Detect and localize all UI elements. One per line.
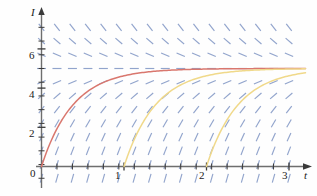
- slope-field-dash: [209, 106, 214, 113]
- slope-field-dash: [224, 106, 229, 113]
- y-axis-label: I: [31, 7, 35, 18]
- slope-field-dash: [209, 24, 214, 31]
- plot-canvas: [0, 0, 317, 196]
- slope-field-dash: [223, 80, 231, 84]
- slope-field-figure: I t 0 1 2 3 2 4 6: [0, 0, 317, 196]
- slope-field-dash: [193, 24, 198, 31]
- slope-field-dash: [209, 119, 214, 127]
- slope-field-dash: [148, 133, 152, 141]
- slope-field-dash: [193, 106, 198, 113]
- slope-field-dash: [163, 133, 167, 141]
- slope-field-dash: [131, 38, 138, 44]
- slope-field-dash: [146, 93, 153, 99]
- slope-field-dash: [55, 147, 58, 155]
- slope-field-dash: [257, 174, 260, 183]
- slope-field-dash: [177, 53, 185, 57]
- slope-field-dash: [54, 93, 61, 99]
- x-tick-label-2: 2: [199, 170, 205, 181]
- slope-field-dash: [84, 53, 92, 57]
- slope-field-dash: [179, 133, 183, 141]
- slope-field-dash: [131, 93, 138, 99]
- slope-field-dash: [99, 53, 107, 57]
- slope-field-dash: [271, 119, 276, 127]
- slope-field-dash: [241, 133, 245, 141]
- slope-field-dash: [194, 133, 198, 141]
- slope-field-dash: [102, 147, 105, 155]
- slope-field-dash: [270, 93, 277, 99]
- slope-field-dash: [269, 53, 277, 57]
- slope-field-dash: [286, 24, 292, 31]
- slope-field-dash: [116, 106, 121, 113]
- slope-field-dash: [256, 133, 260, 141]
- slope-field-dash: [256, 147, 259, 155]
- slope-field-dash: [85, 106, 90, 113]
- slope-field-dash: [87, 174, 90, 183]
- slope-field-dash: [240, 119, 245, 127]
- slope-field-dash: [195, 147, 198, 155]
- slope-field-dash: [287, 133, 291, 141]
- slope-field-dash: [68, 53, 76, 57]
- slope-field-dash: [71, 174, 74, 183]
- slope-field-dash: [164, 147, 167, 155]
- slope-field-dash: [148, 147, 151, 155]
- slope-field-dash: [272, 174, 275, 183]
- slope-field-dash: [117, 119, 122, 127]
- slope-field-dash: [178, 106, 184, 113]
- slope-field-dash: [101, 24, 106, 31]
- slope-field-dash: [116, 24, 121, 31]
- solution-curves: [42, 69, 306, 167]
- slope-field-dash: [272, 133, 276, 141]
- slope-field-dash: [208, 80, 216, 84]
- slope-field-dash: [287, 147, 290, 155]
- slope-field-dash: [115, 53, 123, 57]
- slope-field-dash: [132, 106, 137, 113]
- slope-field-dash: [132, 119, 137, 127]
- slope-field-dash: [179, 174, 182, 183]
- slope-field-dash: [224, 93, 231, 99]
- slope-field-dash: [115, 80, 123, 84]
- slope-field-dash: [146, 38, 153, 44]
- slope-field-dash: [193, 93, 200, 99]
- slope-field-dash: [146, 80, 154, 84]
- axes-group: [36, 7, 312, 188]
- slope-field-dash: [161, 53, 169, 57]
- x-tick-label-3: 3: [282, 170, 288, 181]
- slope-field-dash: [132, 24, 137, 31]
- slope-field-dash: [84, 80, 92, 84]
- slope-field-dash: [288, 174, 291, 183]
- solution-curve-2: [124, 69, 306, 167]
- slope-field-dash: [68, 80, 76, 84]
- slope-field-dash: [100, 38, 107, 44]
- slope-field-dash: [224, 38, 231, 44]
- slope-field-dash: [286, 38, 293, 44]
- slope-field-dash: [71, 147, 74, 155]
- slope-field-dash: [54, 106, 60, 113]
- slope-field-dash: [178, 24, 184, 31]
- slope-field-dash: [101, 106, 106, 113]
- slope-field-dash: [148, 119, 153, 127]
- slope-field-dash: [161, 80, 169, 84]
- slope-field-dash: [115, 38, 122, 44]
- slope-field-dash: [271, 24, 277, 31]
- slope-field-dash: [115, 93, 122, 99]
- slope-field-dash: [271, 106, 277, 113]
- slope-field-dash: [163, 119, 168, 127]
- slope-field-dash: [85, 24, 90, 31]
- slope-field-dash: [86, 119, 91, 127]
- slope-field-dash: [208, 38, 215, 44]
- slope-field-dash: [192, 53, 200, 57]
- slope-field-dash: [210, 174, 213, 183]
- slope-field-dash: [240, 106, 245, 113]
- slope-field-dash: [86, 147, 89, 155]
- slope-field-dash: [226, 147, 229, 155]
- slope-field-dash: [226, 174, 228, 183]
- slope-field-dash: [71, 133, 75, 141]
- slope-field-dash: [254, 80, 262, 84]
- slope-field-dash: [224, 24, 229, 31]
- slope-field-dash: [53, 53, 61, 57]
- slope-field-dash: [179, 147, 182, 155]
- slope-field-dash: [117, 147, 120, 155]
- slope-field-dash: [239, 38, 246, 44]
- slope-field-dash: [255, 93, 262, 99]
- slope-field-dash: [177, 93, 184, 99]
